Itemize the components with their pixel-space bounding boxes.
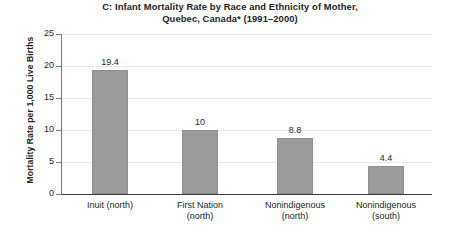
bar-nonindigenous-south[interactable]	[368, 166, 404, 194]
bar-value-first-nation-north: 10	[170, 117, 230, 127]
chart-title-line-1: C: Infant Mortality Rate by Race and Eth…	[102, 1, 358, 12]
y-tick-20	[56, 66, 61, 67]
y-tick-5	[56, 162, 61, 163]
bar-inuit-north[interactable]	[92, 70, 128, 194]
x-label-first-nation-north: First Nation (north)	[152, 200, 248, 222]
chart-title-line-2: Quebec, Canada* (1991–2000)	[30, 13, 430, 25]
y-tick-label-0: 0	[28, 188, 54, 198]
y-tick-10	[56, 130, 61, 131]
y-tick-label-20: 20	[28, 60, 54, 70]
x-label-inuit-north: Inuit (north)	[62, 200, 158, 211]
y-tick-label-25: 25	[28, 28, 54, 38]
bar-value-inuit-north: 19.4	[80, 57, 140, 67]
infant-mortality-bar-chart: C: Infant Mortality Rate by Race and Eth…	[0, 0, 452, 234]
bar-value-nonindigenous-north: 8.8	[265, 125, 325, 135]
gridline-25	[62, 34, 432, 35]
x-axis-baseline	[62, 194, 432, 195]
x-label-nonindigenous-south: Nonindigenous (south)	[338, 200, 434, 222]
x-label-nonindigenous-north: Nonindigenous (north)	[247, 200, 343, 222]
y-tick-label-5: 5	[28, 156, 54, 166]
y-tick-15	[56, 98, 61, 99]
x-label-nonindigenous-south-line-1: Nonindigenous	[356, 200, 416, 210]
bar-first-nation-north[interactable]	[182, 130, 218, 194]
y-tick-0	[56, 194, 61, 195]
chart-title: C: Infant Mortality Rate by Race and Eth…	[30, 1, 430, 25]
y-tick-25	[56, 34, 61, 35]
x-label-nonindigenous-north-line-1: Nonindigenous	[265, 200, 325, 210]
y-tick-label-10: 10	[28, 124, 54, 134]
bar-value-nonindigenous-south: 4.4	[356, 153, 416, 163]
x-label-inuit-north-line-1: Inuit (north)	[87, 200, 133, 210]
bar-nonindigenous-north[interactable]	[277, 138, 313, 194]
y-axis-title: Mortality Rate per 1,000 Live Births	[25, 25, 35, 195]
x-label-first-nation-north-line-2: (north)	[187, 211, 214, 221]
y-tick-label-15: 15	[28, 92, 54, 102]
x-label-first-nation-north-line-1: First Nation	[177, 200, 223, 210]
x-label-nonindigenous-north-line-2: (north)	[282, 211, 309, 221]
x-label-nonindigenous-south-line-2: (south)	[372, 211, 400, 221]
